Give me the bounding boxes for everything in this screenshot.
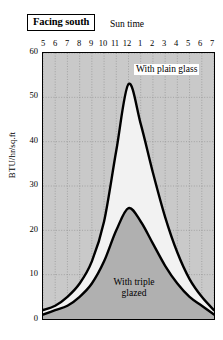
y-tick-label-40: 40	[20, 136, 38, 145]
y-tick-label-0: 0	[20, 314, 38, 323]
y-tick-label-10: 10	[20, 269, 38, 278]
y-tick-label-50: 50	[20, 91, 38, 100]
solar-heat-gain-chart: Facing south Sun time BTU/hr/sq.ft 5 6 7…	[0, 0, 223, 340]
y-axis-title: BTU/hr/sq.ft	[7, 115, 17, 195]
annotation-triple-glazed-line1: With triple	[103, 277, 165, 288]
chart-title-box: Facing south	[27, 14, 95, 31]
x-tick-label-7: 12	[120, 39, 134, 48]
annotation-plain-glass: With plain glass	[134, 64, 199, 75]
annotation-triple-glazed: With triple glazed	[103, 277, 165, 298]
x-tick-label-14: 7	[205, 39, 219, 48]
y-tick-label-60: 60	[20, 47, 38, 56]
x-axis-title: Sun time	[110, 19, 144, 30]
annotation-triple-glazed-line2: glazed	[103, 288, 165, 299]
y-tick-label-30: 30	[20, 180, 38, 189]
y-tick-label-20: 20	[20, 225, 38, 234]
